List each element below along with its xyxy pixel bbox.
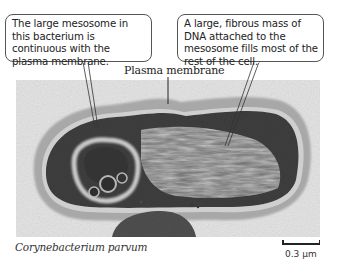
electron-micrograph [16,80,320,237]
dna-callout-text: A large, fibrous mass of DNA attached to… [184,18,318,67]
mesosome-callout-text: The large mesosome in this bacterium is … [12,18,128,67]
scale-bar [282,240,320,248]
species-caption: Corynebacterium parvum [15,241,147,253]
mesosome-callout: The large mesosome in this bacterium is … [5,14,152,62]
scale-bar-label: 0.3 µm [285,249,317,259]
plasma-membrane-label: Plasma membrane [124,64,224,77]
dna-callout: A large, fibrous mass of DNA attached to… [177,14,324,62]
